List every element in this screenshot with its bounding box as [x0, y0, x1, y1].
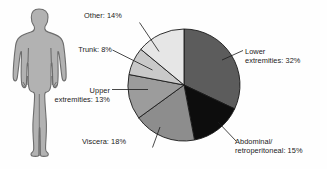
human-body-silhouette: [8, 6, 70, 161]
pie-label-trunk: Trunk: 8%: [40, 45, 112, 54]
pie-label-viscera: Viscera: 18%: [82, 137, 154, 146]
pie-label-other: Other: 14%: [84, 11, 156, 20]
pie-label-upper-extremities: Upper extremities: 13%: [22, 86, 110, 104]
pie-label-abdominal-retroperitoneal: Abdominal/ retroperitoneal: 15%: [235, 137, 327, 155]
pie-chart-graphic: [126, 27, 242, 143]
pie-label-lower-extremities: Lower extremities: 32%: [245, 47, 325, 65]
pie-chart-figure: Other: 14% Trunk: 8% Upper extremities: …: [0, 0, 327, 169]
pie-slices: [128, 29, 240, 141]
